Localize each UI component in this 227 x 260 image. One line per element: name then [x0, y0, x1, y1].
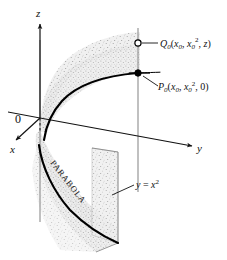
y-axis-label: y: [196, 142, 202, 154]
figure-container: Q0(x0, x02, z) P0(x0, x02, 0) z y x 0 PA…: [0, 0, 227, 260]
point-Q0-marker: [135, 40, 141, 46]
point-P0-group: P0(x0, x02, 0): [129, 70, 209, 94]
parabolic-cylinder-figure: Q0(x0, x02, z) P0(x0, x02, 0) z y x 0 PA…: [0, 0, 227, 260]
point-P0-marker: [135, 70, 141, 76]
point-P0-label-base: P: [157, 81, 164, 92]
point-Q0-group: Q0(x0, x02, z): [135, 36, 211, 50]
point-Q0-label: Q0(x0, x02, z): [160, 36, 211, 50]
equation-label: y = x2: [135, 178, 160, 190]
y-axis-negative-stub: [8, 112, 40, 118]
point-P0-leader-line: [143, 76, 158, 86]
point-P0-label: P0(x0, x02, 0): [157, 80, 209, 94]
parabolic-cylinder-surface: [32, 32, 140, 252]
y-axis: [40, 118, 192, 146]
x-axis-label: x: [9, 143, 15, 155]
equation-label-group: y = x2: [112, 178, 160, 195]
equation-rhs-sup: 2: [156, 178, 160, 186]
origin-label: 0: [15, 112, 21, 126]
surface-right-panel: [92, 148, 118, 243]
z-axis-label: z: [35, 7, 41, 19]
